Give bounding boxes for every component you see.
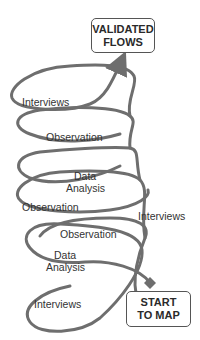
loop-label-interviews-right: Interviews bbox=[138, 210, 185, 222]
loop-label-interviews-bottom: Interviews bbox=[34, 298, 81, 310]
start-to-map-box: START TO MAP bbox=[126, 291, 191, 327]
loop-label-interviews-top: Interviews bbox=[22, 96, 69, 108]
start-to-map-line2: TO MAP bbox=[137, 309, 180, 322]
validated-flows-line2: FLOWS bbox=[103, 36, 143, 49]
loop-label-observation-1: Observation bbox=[46, 131, 103, 143]
loop-label-data-2: Data bbox=[54, 249, 76, 261]
loop-label-observation-3: Observation bbox=[60, 228, 117, 240]
validated-flows-box: VALIDATED FLOWS bbox=[91, 18, 155, 53]
loop-label-analysis-2: Analysis bbox=[46, 261, 85, 273]
start-to-map-line1: START bbox=[141, 296, 177, 309]
loop-label-analysis-1: Analysis bbox=[66, 182, 105, 194]
loop-label-data-1: Data bbox=[74, 170, 96, 182]
validated-flows-line1: VALIDATED bbox=[92, 23, 153, 36]
loop-label-observation-2: Observation bbox=[22, 201, 79, 213]
